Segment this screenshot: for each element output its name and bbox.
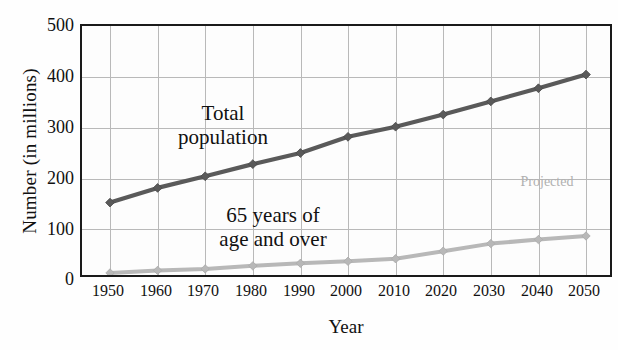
- data-point: [249, 262, 257, 270]
- y-tick-label-200: 200: [14, 169, 74, 187]
- annotation-projected: Projected: [492, 174, 602, 190]
- data-point: [487, 239, 495, 247]
- data-point: [344, 257, 352, 265]
- annotation-total-population: Total population: [148, 102, 298, 149]
- data-point: [582, 232, 590, 240]
- y-tick-label-0: 0: [14, 270, 74, 288]
- data-point: [439, 247, 447, 255]
- data-point: [439, 110, 448, 119]
- data-point: [391, 255, 399, 263]
- annotation-65-and-over: 65 years of age and over: [178, 204, 368, 251]
- y-tick-label-500: 500: [14, 16, 74, 34]
- y-tick-label-300: 300: [14, 118, 74, 136]
- y-axis-title: Number (in millions): [19, 11, 41, 291]
- data-point: [201, 265, 209, 273]
- annotation-65-and-over-line2: age and over: [178, 228, 368, 252]
- data-point: [391, 122, 400, 131]
- y-tick-label-100: 100: [14, 220, 74, 238]
- population-line-chart: Number (in millions) 500 400 300 200 100…: [0, 0, 618, 350]
- data-point: [201, 172, 210, 181]
- data-point: [106, 269, 114, 277]
- x-axis-title: Year: [80, 316, 612, 338]
- data-point: [248, 160, 257, 169]
- data-point: [296, 259, 304, 267]
- data-point: [153, 266, 161, 274]
- annotation-total-population-line2: population: [148, 126, 298, 150]
- x-tick-label-2050: 2050: [556, 283, 612, 299]
- y-tick-label-400: 400: [14, 67, 74, 85]
- data-point: [486, 97, 495, 106]
- annotation-total-population-line1: Total: [148, 102, 298, 126]
- data-point: [534, 235, 542, 243]
- annotation-65-and-over-line1: 65 years of: [178, 204, 368, 228]
